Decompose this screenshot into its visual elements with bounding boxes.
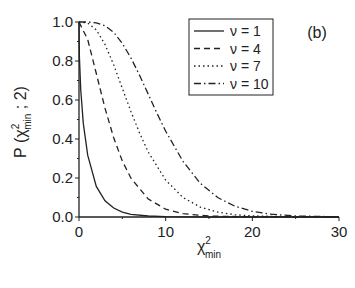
x-axis-label: χ2min	[197, 235, 221, 260]
legend-entry: ν = 4	[230, 41, 261, 57]
x-tick-label: 10	[157, 223, 174, 240]
y-axis-label: P (χ2min ; 2)	[10, 86, 33, 158]
y-tick-label: 0.0	[52, 208, 73, 225]
y-tick-label: 0.6	[52, 91, 73, 108]
y-tick-label: 0.2	[52, 169, 73, 186]
x-tick-label: 30	[331, 223, 348, 240]
legend-entry: ν = 1	[230, 23, 261, 39]
y-tick-label: 0.8	[52, 52, 73, 69]
axes: 01020300.00.20.40.60.81.0χ2minP (χ2min ;…	[10, 13, 347, 260]
legend-entry: ν = 10	[230, 76, 269, 92]
legend-entry: ν = 7	[230, 58, 261, 74]
x-tick-label: 0	[75, 223, 83, 240]
chi-square-probability-chart: 01020300.00.20.40.60.81.0χ2minP (χ2min ;…	[0, 0, 355, 288]
y-tick-label: 0.4	[52, 130, 73, 147]
legend: ν = 1ν = 4ν = 7ν = 10	[189, 19, 273, 95]
x-tick-label: 20	[244, 223, 261, 240]
panel-label: (b)	[307, 24, 327, 41]
y-tick-label: 1.0	[52, 13, 73, 30]
